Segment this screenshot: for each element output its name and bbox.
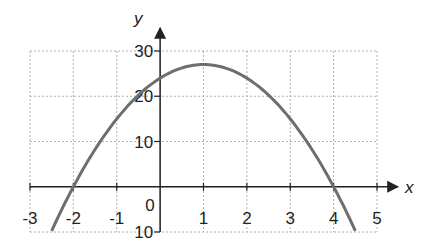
y-tick-label: 10	[134, 223, 153, 242]
x-tick-label: -2	[66, 209, 81, 228]
x-axis-label: x	[404, 178, 414, 197]
x-tick-label: 3	[286, 209, 295, 228]
origin-label: 0	[145, 196, 154, 215]
x-tick-label: 2	[242, 209, 251, 228]
x-tick-label: 1	[199, 209, 208, 228]
x-tick-label: -3	[22, 209, 37, 228]
y-tick-label: 30	[134, 42, 153, 61]
y-axis-label: y	[133, 9, 144, 28]
grid-lines	[30, 51, 377, 232]
x-tick-label: -1	[109, 209, 124, 228]
x-tick-label: 4	[329, 209, 338, 228]
parabola-chart: -3-2-11234510102030 x y 0	[0, 0, 425, 248]
x-tick-label: 5	[372, 209, 381, 228]
y-tick-label: 10	[134, 133, 153, 152]
